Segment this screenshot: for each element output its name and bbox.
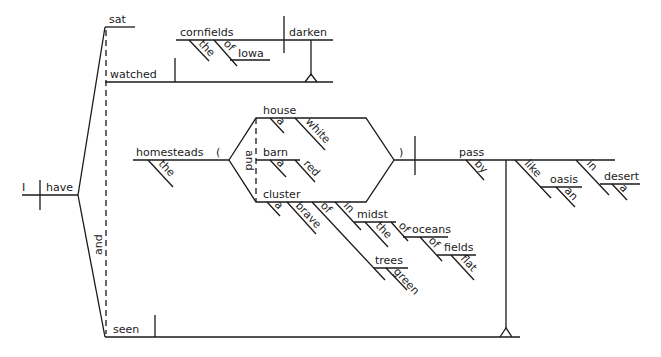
- word-cornfields: cornfields: [180, 26, 234, 39]
- word-homesteads: homesteads: [136, 146, 204, 159]
- open-paren: (: [216, 146, 220, 159]
- word-midst: midst: [357, 208, 388, 221]
- sentence-diagram: I have and sat watched cornfields darken…: [0, 0, 661, 357]
- word-have: have: [46, 181, 73, 194]
- word-I: I: [22, 181, 25, 194]
- word-red: red: [301, 157, 323, 179]
- seen-clause: homesteads ( the and house a white barn …: [133, 104, 640, 297]
- word-trees: trees: [375, 254, 403, 267]
- word-and-main: and: [92, 234, 105, 255]
- word-watched: watched: [110, 68, 157, 81]
- word-house: house: [263, 104, 296, 117]
- participle-sat: sat: [105, 13, 135, 27]
- participle-watched: watched cornfields darken the of Iowa: [105, 16, 333, 82]
- word-fields: fields: [444, 241, 474, 254]
- word-green: green: [391, 265, 422, 297]
- close-paren: ): [399, 146, 403, 159]
- word-sat: sat: [109, 13, 126, 26]
- word-of-oceans: of: [396, 219, 414, 236]
- word-and-appositive: and: [243, 150, 256, 171]
- main-clause: I have and: [22, 27, 106, 337]
- word-seen: seen: [113, 323, 139, 336]
- word-Iowa: Iowa: [238, 47, 264, 60]
- word-darken: darken: [289, 26, 327, 39]
- word-desert: desert: [604, 170, 640, 183]
- word-oasis: oasis: [550, 173, 578, 186]
- word-a-desert: a: [617, 181, 631, 195]
- word-oceans: oceans: [412, 223, 451, 236]
